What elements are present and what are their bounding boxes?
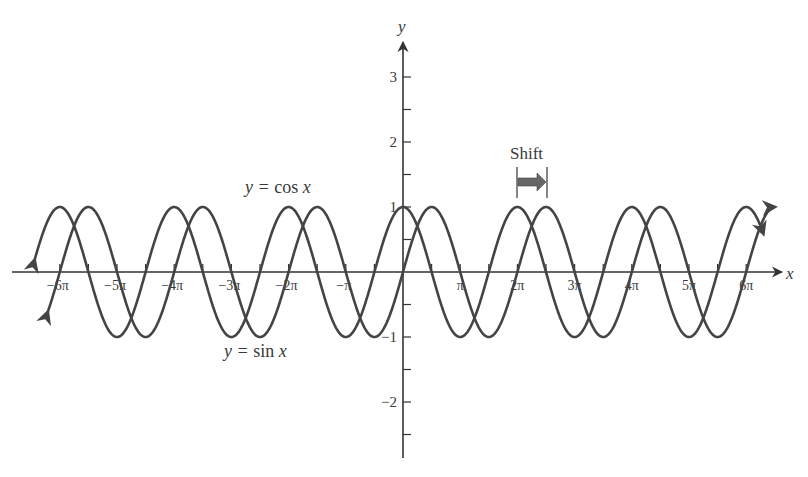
sine-cosine-plot: −6π−5π−4π−3π−2π−ππ2π3π4π5π6π 321−1−2 x y… xyxy=(0,0,808,477)
x-axis-label: x xyxy=(785,264,794,283)
y-tick-label: 3 xyxy=(390,69,398,85)
sin-label-y: y = xyxy=(222,341,253,361)
y-tick-label: 2 xyxy=(390,134,398,150)
shift-annotation: Shift xyxy=(510,144,547,198)
y-tick-label: −2 xyxy=(381,394,397,410)
sin-curve-label: y = sin x xyxy=(222,341,287,361)
y-axis-label: y xyxy=(396,17,406,36)
shift-label: Shift xyxy=(510,144,543,163)
shift-arrow-icon xyxy=(518,173,546,191)
axes: −6π−5π−4π−3π−2π−ππ2π3π4π5π6π 321−1−2 x y xyxy=(12,17,794,458)
chart-root: −6π−5π−4π−3π−2π−ππ2π3π4π5π6π 321−1−2 x y… xyxy=(0,0,808,477)
cos-label-y: y = xyxy=(243,177,274,197)
sin-label-fn: sin xyxy=(253,341,279,361)
cos-curve-label: y = cos x xyxy=(243,177,311,197)
cos-label-x: x xyxy=(302,177,311,197)
cos-label-fn: cos xyxy=(274,177,303,197)
sin-label-x: x xyxy=(278,341,287,361)
